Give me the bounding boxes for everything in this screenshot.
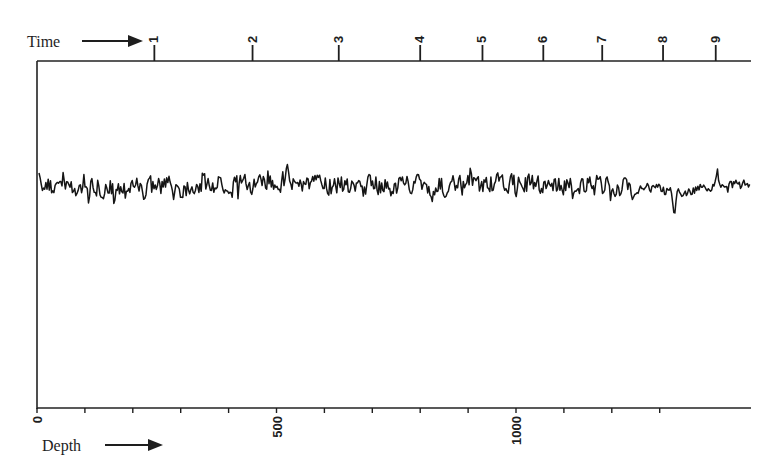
depth-ticks: 05001000 bbox=[30, 408, 660, 445]
depth-tick-label: 1000 bbox=[509, 416, 524, 445]
depth-arrow-icon bbox=[105, 439, 163, 451]
time-tick-label: 4 bbox=[412, 35, 427, 43]
time-tick-label: 6 bbox=[535, 36, 550, 43]
time-tick-label: 1 bbox=[146, 36, 161, 43]
time-tick-label: 5 bbox=[474, 36, 489, 43]
time-tick-label: 9 bbox=[708, 36, 723, 43]
depth-tick-label: 500 bbox=[270, 416, 285, 438]
time-tick-label: 8 bbox=[655, 36, 670, 43]
time-tick-label: 7 bbox=[594, 36, 609, 43]
chart: Time 123456789 05001000 Depth bbox=[0, 0, 765, 473]
signal-trace bbox=[39, 165, 750, 213]
time-ticks: 123456789 bbox=[146, 35, 722, 61]
time-tick-label: 3 bbox=[331, 36, 346, 43]
depth-axis-label: Depth bbox=[42, 437, 81, 455]
time-axis-label: Time bbox=[27, 33, 60, 50]
depth-tick-label: 0 bbox=[30, 416, 45, 423]
time-tick-label: 2 bbox=[245, 36, 260, 43]
time-arrow-icon bbox=[82, 35, 143, 47]
